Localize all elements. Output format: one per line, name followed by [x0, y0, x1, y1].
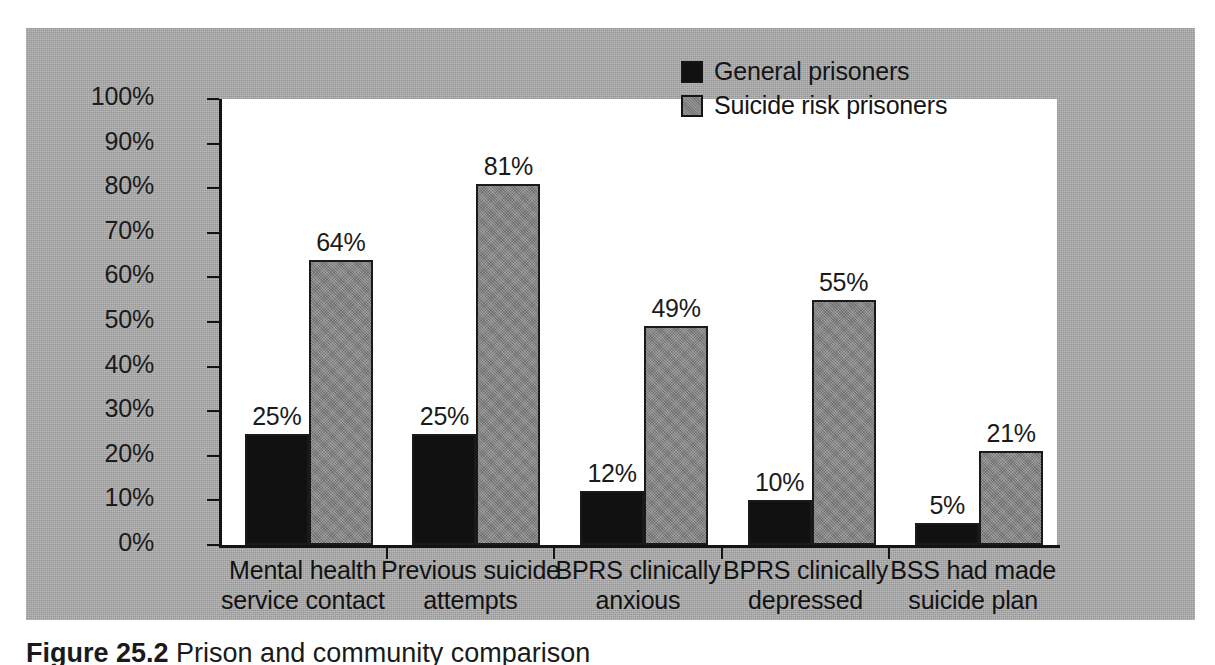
- legend-item-label: Suicide risk prisoners: [714, 91, 947, 120]
- y-axis-tick: [207, 499, 219, 501]
- y-axis-tick-label: 20%: [62, 439, 154, 468]
- y-axis-tick: [207, 321, 219, 323]
- x-axis-category-label: Previous suicide attempts: [375, 555, 567, 615]
- x-axis-group-tick: [386, 548, 388, 559]
- bar-risk[interactable]: [644, 326, 708, 545]
- y-axis-tick-label: 80%: [62, 171, 154, 200]
- figure-caption: Figure 25.2 Prison and community compari…: [26, 638, 1126, 665]
- y-axis-tick-label: 90%: [62, 127, 154, 156]
- x-axis-group-tick: [888, 548, 890, 559]
- bar-risk[interactable]: [812, 300, 876, 545]
- x-axis-line: [219, 545, 1060, 548]
- bar-general[interactable]: [915, 523, 979, 545]
- legend-item-label: General prisoners: [714, 57, 909, 86]
- y-axis-line: [219, 99, 222, 548]
- gray-square-icon: [681, 95, 703, 117]
- y-axis-tick-label: 0%: [62, 528, 154, 557]
- x-axis-category-label: BSS had made suicide plan: [877, 555, 1069, 615]
- y-axis-tick: [207, 98, 219, 100]
- bar-value-label: 64%: [295, 228, 387, 257]
- x-axis-category-label: Mental health service contact: [207, 555, 399, 615]
- bar-value-label: 81%: [462, 152, 554, 181]
- y-axis-tick: [207, 232, 219, 234]
- x-axis-group-tick: [553, 548, 555, 559]
- bar-general[interactable]: [748, 500, 812, 545]
- bar-risk[interactable]: [476, 184, 540, 545]
- y-axis-tick-label: 60%: [62, 260, 154, 289]
- bar-general[interactable]: [245, 434, 309, 546]
- y-axis-tick-label: 40%: [62, 350, 154, 379]
- y-axis-tick: [207, 455, 219, 457]
- x-axis-group-tick: [721, 548, 723, 559]
- y-axis-tick-label: 10%: [62, 483, 154, 512]
- y-axis-tick-label: 50%: [62, 305, 154, 334]
- bar-value-label: 49%: [630, 294, 722, 323]
- legend-item[interactable]: General prisoners: [681, 57, 947, 86]
- y-axis-tick: [207, 544, 219, 546]
- y-axis-tick-label: 30%: [62, 394, 154, 423]
- y-axis-tick: [207, 187, 219, 189]
- y-axis-tick: [207, 410, 219, 412]
- bar-risk[interactable]: [979, 451, 1043, 545]
- x-axis-category-label: BPRS clinically anxious: [542, 555, 734, 615]
- figure-caption-number: Figure 25.2: [26, 638, 169, 665]
- y-axis-tick-label: 70%: [62, 216, 154, 245]
- y-axis-tick: [207, 143, 219, 145]
- figure-panel: 0%10%20%30%40%50%60%70%80%90%100% 25%64%…: [26, 28, 1195, 620]
- bar-value-label: 55%: [798, 268, 890, 297]
- bar-general[interactable]: [580, 491, 644, 545]
- bar-general[interactable]: [412, 434, 476, 546]
- legend-item[interactable]: Suicide risk prisoners: [681, 91, 947, 120]
- y-axis-tick: [207, 366, 219, 368]
- figure-caption-text: Prison and community comparison: [176, 638, 590, 665]
- figure-page: 0%10%20%30%40%50%60%70%80%90%100% 25%64%…: [0, 0, 1215, 665]
- bar-risk[interactable]: [309, 260, 373, 545]
- bar-value-label: 21%: [965, 419, 1057, 448]
- black-square-icon: [681, 61, 703, 83]
- chart-legend: General prisonersSuicide risk prisoners: [681, 57, 947, 120]
- y-axis-tick-label: 100%: [62, 82, 154, 111]
- y-axis-tick: [207, 276, 219, 278]
- x-axis-category-label: BPRS clinically depressed: [710, 555, 902, 615]
